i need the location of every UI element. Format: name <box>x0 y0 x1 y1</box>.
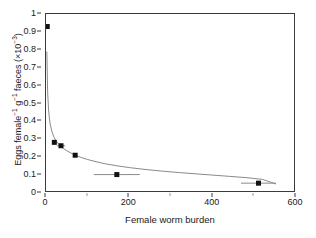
y-tick-mark <box>37 48 41 49</box>
x-minor-tick-mark <box>86 193 87 196</box>
y-tick-label: 0.9 <box>23 26 36 35</box>
y-tick-mark <box>37 138 41 139</box>
x-tick-mark <box>45 193 46 197</box>
data-point-marker <box>52 140 57 145</box>
x-tick-mark <box>211 193 212 197</box>
x-tick-label: 200 <box>121 198 136 207</box>
data-point-marker <box>256 181 261 186</box>
y-tick-mark <box>37 120 41 121</box>
y-tick-mark <box>37 30 41 31</box>
plot-svg <box>46 14 296 193</box>
figure-container: 00.10.20.30.40.50.60.70.80.91 Eggs femal… <box>0 0 316 238</box>
y-tick-label: 0.3 <box>23 134 36 143</box>
y-tick-mark <box>37 102 41 103</box>
y-tick-label: 0.2 <box>23 152 36 161</box>
data-point-marker <box>73 153 78 158</box>
y-tick-mark <box>37 84 41 85</box>
y-tick-mark <box>37 156 41 157</box>
x-tick-label: 0 <box>42 198 47 207</box>
data-point-marker <box>46 24 50 29</box>
y-tick-mark <box>37 174 41 175</box>
plot-area <box>45 13 295 192</box>
y-tick-label: 0.1 <box>23 170 36 179</box>
data-point-marker <box>59 143 64 148</box>
y-axis-title: Eggs female−1 g−1 faeces (×10−3) <box>13 15 24 185</box>
x-tick-label: 600 <box>287 198 302 207</box>
y-tick-label: 0.7 <box>23 62 36 71</box>
y-tick-label: 0.5 <box>23 98 36 107</box>
y-tick-label: 0.4 <box>23 116 36 125</box>
x-tick-mark <box>295 193 296 197</box>
x-tick-label: 400 <box>204 198 219 207</box>
y-tick-mark <box>37 66 41 67</box>
y-tick-mark <box>37 192 41 193</box>
x-minor-tick-mark <box>253 193 254 196</box>
x-axis: 0200400600 <box>45 193 296 213</box>
data-point-marker <box>114 172 119 177</box>
y-tick-label: 0.8 <box>23 44 36 53</box>
y-tick-label: 0.6 <box>23 80 36 89</box>
y-tick-mark <box>37 13 41 14</box>
x-axis-title: Female worm burden <box>45 214 295 225</box>
y-tick-label: 1 <box>31 9 36 18</box>
fit-curve <box>47 52 276 184</box>
x-minor-tick-mark <box>170 193 171 196</box>
y-tick-label: 0 <box>31 188 36 197</box>
x-tick-mark <box>128 193 129 197</box>
